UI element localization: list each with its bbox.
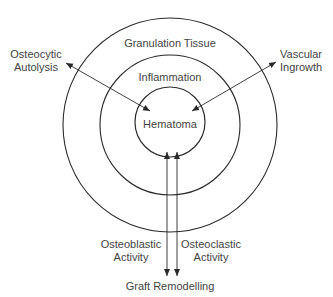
vascular-line: Vascular xyxy=(280,48,330,61)
osteocytic-autolysis-label: Osteocytic Autolysis xyxy=(6,48,66,74)
activity-line-right: Activity xyxy=(181,251,241,264)
vascular-ingrowth-arrow xyxy=(192,62,276,111)
activity-line-left: Activity xyxy=(100,251,162,264)
granulation-tissue-label: Granulation Tissue xyxy=(122,37,218,50)
osteoblastic-activity-label: Osteoblastic Activity xyxy=(100,238,162,264)
ingrowth-line: Ingrowth xyxy=(280,61,330,74)
hematoma-label: Hematoma xyxy=(140,118,200,131)
vascular-ingrowth-label: Vascular Ingrowth xyxy=(280,48,330,74)
osteoclastic-line: Osteoclastic xyxy=(181,238,241,251)
inflammation-label: Inflammation xyxy=(135,71,205,84)
osteocytic-line: Osteocytic xyxy=(6,48,66,61)
graft-remodelling-label: Graft Remodelling xyxy=(122,280,218,293)
autolysis-line: Autolysis xyxy=(6,61,66,74)
osteoblastic-line: Osteoblastic xyxy=(100,238,162,251)
osteoclastic-activity-label: Osteoclastic Activity xyxy=(181,238,241,264)
